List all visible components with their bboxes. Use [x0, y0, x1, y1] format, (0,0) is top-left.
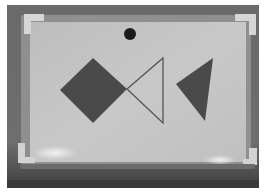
board-bottom-edge — [20, 164, 255, 169]
magnet-dot — [124, 28, 136, 40]
glare-left — [33, 146, 77, 160]
whiteboard-photo — [0, 0, 267, 194]
foreground-edge — [7, 180, 259, 188]
glare-right — [204, 155, 236, 165]
